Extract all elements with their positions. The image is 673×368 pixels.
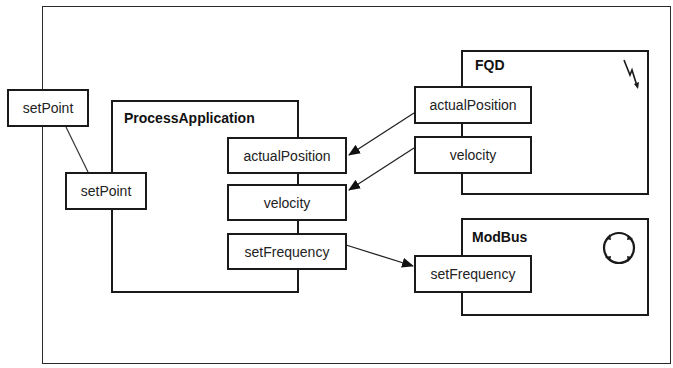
- port-fqd-velocity[interactable]: velocity: [414, 136, 532, 174]
- port-process-set-frequency[interactable]: setFrequency: [227, 233, 347, 270]
- port-label: velocity: [264, 195, 311, 211]
- port-label: actualPosition: [429, 97, 516, 113]
- component-title: FQD: [475, 57, 505, 73]
- port-label: setFrequency: [245, 244, 330, 260]
- port-label: actualPosition: [243, 148, 330, 164]
- cycle-icon: [599, 228, 639, 268]
- port-fqd-actual-position[interactable]: actualPosition: [414, 86, 532, 124]
- port-modbus-set-frequency[interactable]: setFrequency: [414, 255, 532, 293]
- port-process-actual-position[interactable]: actualPosition: [227, 137, 347, 174]
- port-label: setPoint: [81, 183, 132, 199]
- port-process-velocity[interactable]: velocity: [227, 184, 347, 221]
- port-label: velocity: [450, 147, 497, 163]
- component-title: ProcessApplication: [124, 110, 255, 126]
- port-label: setFrequency: [431, 266, 516, 282]
- external-port-setpoint[interactable]: setPoint: [7, 89, 89, 127]
- port-label: setPoint: [23, 100, 74, 116]
- lightning-icon: [621, 58, 641, 92]
- port-process-setpoint[interactable]: setPoint: [65, 172, 147, 210]
- component-title: ModBus: [472, 229, 527, 245]
